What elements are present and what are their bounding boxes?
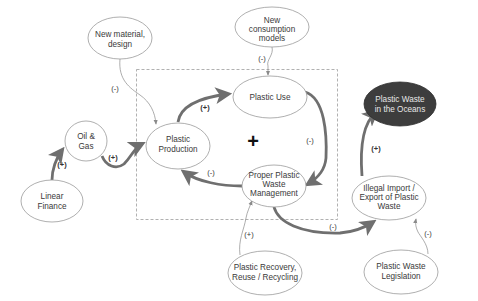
- svg-text:Plastic Recovery,: Plastic Recovery,: [234, 263, 297, 272]
- node-plastic-waste-in-oceans: Plastic Waste in the Oceans: [364, 82, 436, 126]
- node-illegal-import-export: Illegal Import / Export of Plastic Waste: [352, 176, 426, 220]
- svg-text:Proper Plastic: Proper Plastic: [249, 171, 300, 180]
- svg-text:New: New: [264, 16, 280, 25]
- sign-production-to-use: (+): [200, 103, 210, 112]
- svg-text:Management: Management: [250, 189, 299, 198]
- svg-text:consumption: consumption: [249, 25, 296, 34]
- svg-text:in the Oceans: in the Oceans: [375, 105, 426, 114]
- link-consumption-to-use: [268, 47, 273, 75]
- svg-text:Oil &: Oil &: [77, 132, 95, 141]
- svg-text:Linear: Linear: [41, 192, 64, 201]
- link-mgmt-to-illegal: [274, 207, 373, 233]
- sign-mgmt-to-illegal: (-): [329, 222, 337, 231]
- svg-text:Waste: Waste: [378, 202, 401, 211]
- svg-text:models: models: [259, 34, 285, 43]
- svg-text:Plastic Waste: Plastic Waste: [376, 262, 426, 271]
- causal-loop-diagram: New material, design New consumption mod…: [0, 0, 478, 301]
- node-oil-gas: Oil & Gas: [65, 121, 107, 161]
- svg-text:Reuse / Recycling: Reuse / Recycling: [232, 273, 298, 282]
- link-new-material-to-production: [120, 59, 156, 124]
- node-plastic-recovery: Plastic Recovery, Reuse / Recycling: [228, 251, 302, 295]
- svg-text:Plastic Waste: Plastic Waste: [375, 95, 425, 104]
- sign-oil-to-production: (+): [108, 153, 118, 162]
- sign-legislation-to-illegal: (-): [424, 229, 432, 238]
- node-plastic-production: Plastic Production: [146, 123, 210, 169]
- svg-text:New material,: New material,: [95, 30, 145, 39]
- svg-text:Legislation: Legislation: [381, 272, 421, 281]
- node-plastic-waste-legislation: Plastic Waste Legislation: [364, 250, 438, 294]
- sign-use-to-mgmt: (-): [306, 136, 314, 145]
- svg-text:Production: Production: [158, 145, 198, 154]
- node-plastic-use: Plastic Use: [233, 76, 307, 118]
- svg-text:Plastic Use: Plastic Use: [250, 93, 291, 102]
- svg-text:Finance: Finance: [37, 202, 67, 211]
- link-recovery-to-mgmt: [240, 201, 252, 255]
- node-new-consumption-models: New consumption models: [235, 7, 309, 47]
- svg-text:design: design: [108, 40, 133, 49]
- loop-polarity-sign: +: [247, 130, 259, 152]
- sign-mgmt-to-production: (-): [207, 168, 215, 177]
- svg-text:Plastic: Plastic: [166, 135, 190, 144]
- sign-finance-to-oil: (+): [57, 160, 67, 169]
- sign-recovery-to-mgmt: (+): [244, 230, 254, 239]
- svg-text:Waste: Waste: [263, 180, 286, 189]
- svg-text:Export of Plastic: Export of Plastic: [359, 193, 418, 202]
- node-linear-finance: Linear Finance: [21, 180, 83, 222]
- sign-illegal-to-oceans: (+): [371, 144, 381, 153]
- sign-material-to-production: (-): [111, 84, 119, 93]
- sign-consumption-to-use: (-): [258, 54, 266, 63]
- node-new-material-design: New material, design: [88, 17, 152, 59]
- svg-text:Illegal Import /: Illegal Import /: [363, 184, 415, 193]
- svg-text:Gas: Gas: [78, 142, 93, 151]
- node-proper-plastic-waste-management: Proper Plastic Waste Management: [242, 165, 306, 207]
